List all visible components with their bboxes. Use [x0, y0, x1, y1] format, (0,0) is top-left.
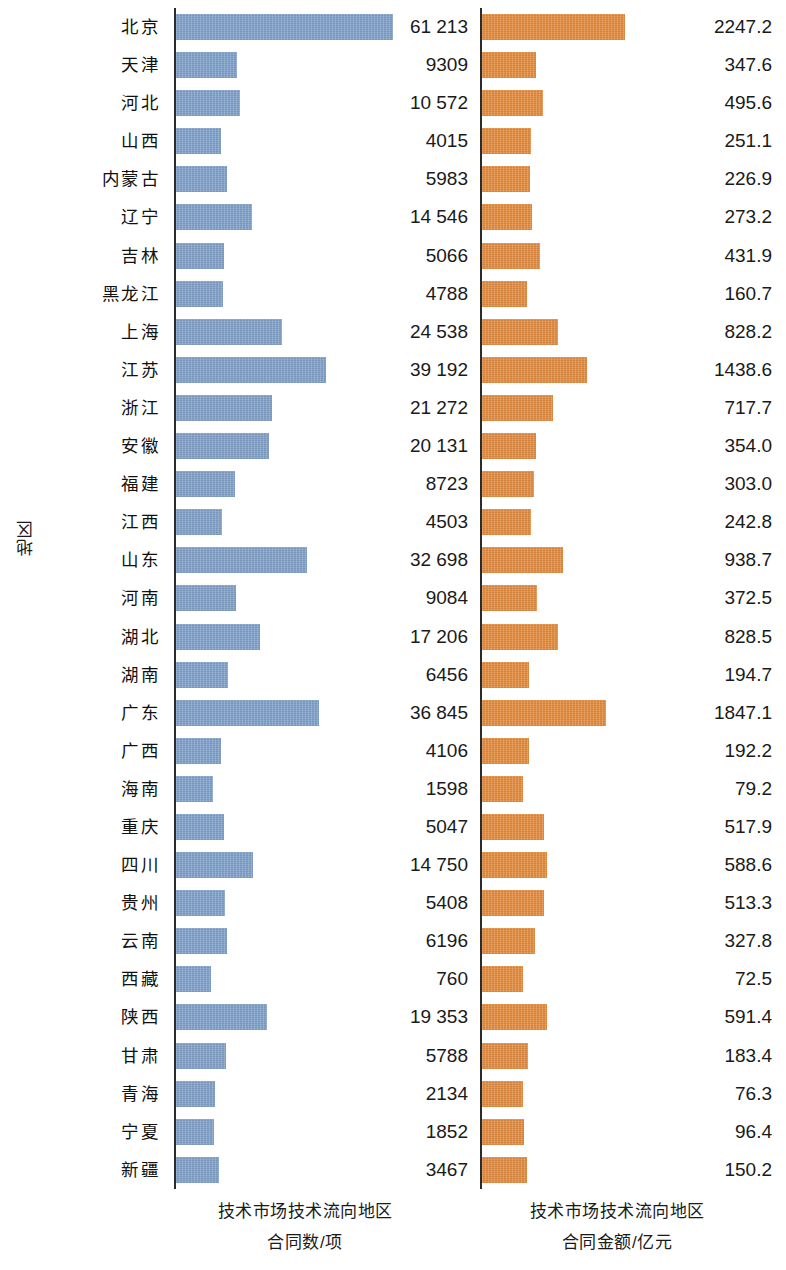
- value-label-amount: 431.9: [620, 237, 772, 275]
- bar-count: [176, 624, 261, 650]
- value-label-count: 17 206: [316, 618, 468, 656]
- value-label-amount: 194.7: [620, 656, 772, 694]
- x-axis-title-count-line2: 合同数/项: [140, 1227, 470, 1258]
- value-label-amount: 72.5: [620, 960, 772, 998]
- value-label-count: 4015: [316, 122, 468, 160]
- value-label-amount: 372.5: [620, 579, 772, 617]
- chart-row: 浙江21 272717.7: [0, 389, 786, 427]
- bar-count: [176, 1043, 226, 1069]
- chart-rows: 北京61 2132247.2天津9309347.6河北10 572495.6山西…: [0, 8, 786, 1189]
- category-label: 黑龙江: [52, 275, 160, 313]
- bar-count: [176, 52, 237, 78]
- value-label-count: 760: [316, 960, 468, 998]
- bar-count: [176, 1004, 267, 1030]
- value-label-count: 19 353: [316, 998, 468, 1036]
- bar-count: [176, 662, 228, 688]
- category-label: 贵州: [52, 884, 160, 922]
- chart-row: 河南9084372.5: [0, 579, 786, 617]
- bar-amount: [482, 1043, 529, 1069]
- bar-count: [176, 966, 211, 992]
- value-label-amount: 327.8: [620, 922, 772, 960]
- value-label-count: 6196: [316, 922, 468, 960]
- chart-row: 青海213476.3: [0, 1075, 786, 1113]
- chart-row: 山东32 698938.7: [0, 541, 786, 579]
- value-label-count: 61 213: [316, 8, 468, 46]
- bar-amount: [482, 52, 536, 78]
- category-label: 青海: [52, 1075, 160, 1113]
- bar-count: [176, 890, 225, 916]
- value-label-count: 32 698: [316, 541, 468, 579]
- value-label-count: 9309: [316, 46, 468, 84]
- x-axis-title-amount-line1: 技术市场技术流向地区: [452, 1196, 782, 1227]
- bar-amount: [482, 776, 524, 802]
- value-label-amount: 717.7: [620, 389, 772, 427]
- bar-count: [176, 509, 223, 535]
- value-label-amount: 828.2: [620, 313, 772, 351]
- chart-row: 贵州5408513.3: [0, 884, 786, 922]
- chart-row: 西藏76072.5: [0, 960, 786, 998]
- category-label: 宁夏: [52, 1113, 160, 1151]
- value-label-amount: 251.1: [620, 122, 772, 160]
- bar-count: [176, 243, 224, 269]
- chart-row: 海南159879.2: [0, 770, 786, 808]
- bar-amount: [482, 166, 531, 192]
- bar-count: [176, 471, 235, 497]
- chart-row: 云南6196327.8: [0, 922, 786, 960]
- chart-row: 四川14 750588.6: [0, 846, 786, 884]
- bar-amount: [482, 1004, 548, 1030]
- value-label-amount: 192.2: [620, 732, 772, 770]
- value-label-count: 3467: [316, 1151, 468, 1189]
- x-axis-title-amount: 技术市场技术流向地区 合同金额/亿元: [452, 1196, 782, 1258]
- bar-amount: [482, 547, 564, 573]
- value-label-amount: 150.2: [620, 1151, 772, 1189]
- category-label: 北京: [52, 8, 160, 46]
- chart-row: 广东36 8451847.1: [0, 694, 786, 732]
- x-axis-title-amount-line2: 合同金额/亿元: [452, 1227, 782, 1258]
- bar-amount: [482, 1157, 527, 1183]
- value-label-count: 5047: [316, 808, 468, 846]
- value-label-amount: 588.6: [620, 846, 772, 884]
- category-label: 甘肃: [52, 1037, 160, 1075]
- chart-row: 山西4015251.1: [0, 122, 786, 160]
- chart-row: 北京61 2132247.2: [0, 8, 786, 46]
- value-label-count: 1598: [316, 770, 468, 808]
- chart-row: 宁夏185296.4: [0, 1113, 786, 1151]
- bar-amount: [482, 243, 540, 269]
- chart-row: 江苏39 1921438.6: [0, 351, 786, 389]
- category-label: 福建: [52, 465, 160, 503]
- bar-count: [176, 204, 253, 230]
- value-label-amount: 79.2: [620, 770, 772, 808]
- value-label-amount: 76.3: [620, 1075, 772, 1113]
- bar-amount: [482, 662, 529, 688]
- bar-amount: [482, 319, 559, 345]
- chart-row: 吉林5066431.9: [0, 237, 786, 275]
- chart-row: 陕西19 353591.4: [0, 998, 786, 1036]
- bar-amount: [482, 471, 534, 497]
- value-label-amount: 354.0: [620, 427, 772, 465]
- category-label: 上海: [52, 313, 160, 351]
- bar-amount: [482, 852, 548, 878]
- value-label-amount: 226.9: [620, 160, 772, 198]
- bar-count: [176, 90, 241, 116]
- bar-count: [176, 700, 320, 726]
- value-label-amount: 513.3: [620, 884, 772, 922]
- bar-count: [176, 852, 253, 878]
- bar-count: [176, 1157, 219, 1183]
- chart-row: 重庆5047517.9: [0, 808, 786, 846]
- bar-count: [176, 281, 223, 307]
- bar-count: [176, 738, 221, 764]
- bar-count: [176, 395, 273, 421]
- bar-amount: [482, 357, 587, 383]
- category-label: 西藏: [52, 960, 160, 998]
- value-label-amount: 591.4: [620, 998, 772, 1036]
- bar-amount: [482, 509, 531, 535]
- value-label-count: 5983: [316, 160, 468, 198]
- value-label-count: 20 131: [316, 427, 468, 465]
- bar-amount: [482, 204, 533, 230]
- category-label: 广东: [52, 694, 160, 732]
- value-label-amount: 828.5: [620, 618, 772, 656]
- value-label-count: 36 845: [316, 694, 468, 732]
- value-label-amount: 495.6: [620, 84, 772, 122]
- value-label-count: 24 538: [316, 313, 468, 351]
- value-label-count: 6456: [316, 656, 468, 694]
